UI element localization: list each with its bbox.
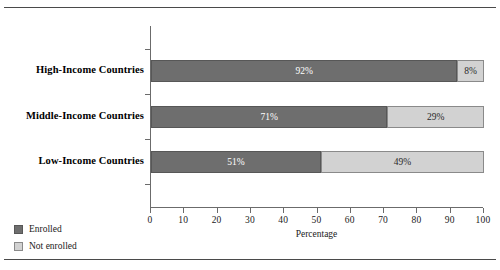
x-axis-tick-label: 100 [468, 215, 498, 225]
x-axis-tick-label: 40 [268, 215, 298, 225]
category-label: Middle-Income Countries [0, 110, 144, 121]
bar-segment-enrolled: 71% [151, 106, 387, 128]
x-axis-tick [217, 208, 218, 213]
x-axis-tick-label: 20 [202, 215, 232, 225]
top-divider-rule [4, 7, 496, 8]
x-axis-tick-label: 10 [168, 215, 198, 225]
x-axis-tick [416, 208, 417, 213]
bar-segment-enrolled: 51% [151, 151, 321, 173]
bar-row: 51%49% [151, 151, 484, 173]
x-axis-tick [383, 208, 384, 213]
x-axis-tick-label: 70 [368, 215, 398, 225]
legend-label: Enrolled [29, 224, 62, 234]
category-label: High-Income Countries [0, 64, 144, 75]
x-axis-tick [317, 208, 318, 213]
x-axis-tick-label: 60 [335, 215, 365, 225]
chart-legend: EnrolledNot enrolled [14, 222, 144, 256]
x-axis-tick [150, 208, 151, 213]
legend-label: Not enrolled [29, 241, 77, 251]
x-axis-tick [350, 208, 351, 213]
y-axis-tick [145, 184, 150, 185]
legend-swatch-icon [14, 225, 23, 234]
legend-item[interactable]: Enrolled [14, 222, 144, 236]
bar-row: 92%8% [151, 60, 484, 82]
x-axis-title: Percentage [150, 229, 483, 239]
bar-segment-enrolled: 92% [151, 60, 457, 82]
bar-segment-not-enrolled: 8% [457, 60, 484, 82]
bar-row: 71%29% [151, 106, 484, 128]
legend-item[interactable]: Not enrolled [14, 239, 144, 253]
bottom-divider-rule [4, 259, 496, 260]
x-axis-tick-label: 30 [235, 215, 265, 225]
y-axis-tick [145, 139, 150, 140]
chart-figure: High-Income CountriesMiddle-Income Count… [0, 0, 500, 270]
x-axis-tick-label: 90 [435, 215, 465, 225]
x-axis-tick [483, 208, 484, 213]
category-label: Low-Income Countries [0, 155, 144, 166]
x-axis-tick [450, 208, 451, 213]
legend-swatch-icon [14, 242, 23, 251]
x-axis-tick [183, 208, 184, 213]
y-axis-tick [145, 49, 150, 50]
x-axis-tick [250, 208, 251, 213]
x-axis-tick-label: 50 [302, 215, 332, 225]
x-axis-tick [283, 208, 284, 213]
bar-segment-not-enrolled: 29% [387, 106, 484, 128]
x-axis-tick-label: 80 [401, 215, 431, 225]
y-axis-tick [145, 94, 150, 95]
plot-area: 0102030405060708090100 92%8%71%29%51%49%… [150, 26, 483, 207]
bar-segment-not-enrolled: 49% [321, 151, 484, 173]
